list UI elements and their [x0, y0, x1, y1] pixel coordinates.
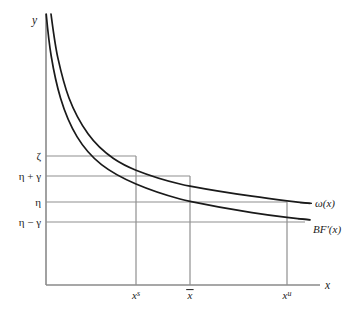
curve-label-bf-prime: BF′(x)	[313, 223, 341, 236]
leader-bf-prime	[298, 219, 310, 220]
x-tick-superscript-u: u	[287, 289, 291, 298]
horizontal-gridlines-group	[46, 156, 305, 222]
x-tick-superscript-s: s	[137, 289, 140, 298]
curve-omega	[51, 14, 310, 203]
curve-labels-group: ω(x) BF′(x)	[298, 197, 341, 237]
y-tick-labels-group: ζ η + γ η η − γ	[19, 150, 42, 228]
x-tick-label-x-u: xu	[282, 289, 292, 302]
axis-names-group: y x	[31, 14, 331, 291]
y-tick-label-eta-plus-gamma: η + γ	[19, 170, 41, 182]
y-tick-label-zeta: ζ	[36, 150, 41, 163]
economics-plot: ω(x) BF′(x) ζ η + γ η η − γ xs x xu	[0, 0, 350, 316]
vertical-droplines-group	[136, 156, 287, 285]
y-axis-label: y	[31, 14, 38, 27]
y-tick-label-eta: η	[35, 196, 41, 208]
x-tick-labels-group: xs x xu	[131, 289, 291, 302]
x-tick-label-x-bar: x	[187, 289, 193, 301]
y-tick-label-eta-minus-gamma: η − γ	[19, 216, 41, 228]
curve-label-omega: ω(x)	[315, 197, 335, 210]
curve-bf-prime	[46, 14, 310, 220]
x-tick-label-x-s: xs	[131, 289, 140, 302]
figure-container: ω(x) BF′(x) ζ η + γ η η − γ xs x xu	[0, 0, 350, 316]
x-axis-label: x	[324, 279, 331, 291]
leader-omega	[300, 203, 312, 204]
curves-group	[46, 14, 310, 220]
